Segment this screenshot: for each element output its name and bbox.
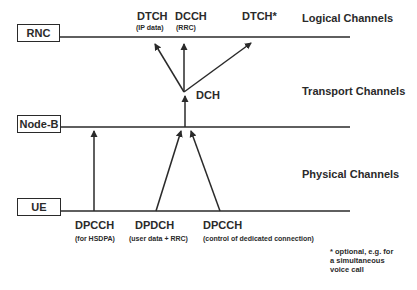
layer-label-transport: Transport Channels [302,85,405,97]
footnote-line-2: a simultaneous [330,256,393,265]
physical-channel-dpdch-desc: (user data + RRC) [129,235,188,242]
arrow-dtch [155,44,184,92]
arrow-dpcch-control [191,131,220,211]
footnote-line-3: voice call [330,265,393,274]
footnote: * optional, e.g. for a simultaneous voic… [330,247,393,274]
physical-channel-dpdch: DPDCH [135,219,174,231]
nodeb-box: Node-B [17,115,61,133]
arrow-dpdch [156,131,181,211]
logical-channel-dtch: DTCH [137,10,168,22]
channel-mapping-diagram: RNC Node-B UE DTCH (IP data) DCCH (RRC) … [0,0,417,290]
logical-channel-dtch-optional: DTCH* [242,10,277,22]
physical-channel-dpcch-control: DPCCH [203,219,242,231]
layer-label-logical: Logical Channels [302,12,393,24]
physical-channel-dpcch-control-desc: (control of dedicated connection) [203,235,314,242]
ue-box: UE [17,198,61,216]
arrow-dtch-optional [184,43,251,92]
physical-channel-dpcch-hsdpa: DPCCH [75,219,114,231]
logical-channel-dcch-desc: (RRC) [176,24,196,31]
footnote-line-1: * optional, e.g. for [330,247,393,256]
logical-channel-dtch-desc: (IP data) [136,24,164,31]
transport-channel-dch: DCH [196,89,220,101]
rnc-box: RNC [17,24,60,42]
physical-channel-dpcch-hsdpa-desc: (for HSDPA) [75,235,115,242]
layer-label-physical: Physical Channels [302,168,399,180]
logical-channel-dcch: DCCH [175,10,207,22]
